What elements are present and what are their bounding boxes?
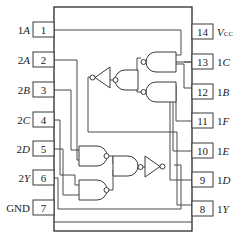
svg-text:2Y: 2Y [18, 172, 32, 184]
ic-pinout-diagram: 1 1A 2 2A 3 2B 4 2C 5 2D 6 2Y 7 GND 14 V… [0, 0, 233, 242]
svg-text:13: 13 [197, 56, 209, 68]
left-pin-1: 1 1A [18, 22, 54, 37]
not-gate-2 [145, 156, 165, 177]
svg-text:2D: 2D [17, 143, 31, 155]
svg-text:4: 4 [41, 114, 47, 126]
svg-text:11: 11 [197, 115, 208, 127]
svg-text:2A: 2A [18, 54, 31, 66]
not-gate-1 [90, 67, 110, 88]
svg-text:5: 5 [41, 143, 47, 155]
svg-text:1Y: 1Y [217, 203, 231, 215]
left-pin-3: 3 2B [18, 82, 54, 97]
svg-text:1: 1 [41, 24, 47, 36]
nand-gate-13 [141, 52, 176, 72]
svg-text:1E: 1E [217, 145, 230, 157]
left-pin-6: 6 2Y [18, 170, 54, 185]
svg-text:2C: 2C [17, 114, 31, 126]
svg-text:9: 9 [200, 174, 206, 186]
nand-gate-12 [141, 82, 176, 102]
chip-body [54, 7, 192, 231]
right-pin-10: 10 1E [192, 143, 230, 158]
svg-text:1F: 1F [217, 115, 230, 127]
svg-text:1B: 1B [217, 86, 230, 98]
svg-text:12: 12 [197, 86, 208, 98]
svg-text:VCC: VCC [217, 26, 233, 38]
right-pin-12: 12 1B [192, 84, 230, 99]
right-pin-13: 13 1C [192, 54, 231, 69]
right-pin-9: 9 1D [192, 172, 231, 187]
left-pin-2: 2 2A [18, 52, 54, 67]
svg-text:1C: 1C [217, 56, 231, 68]
svg-text:1D: 1D [217, 174, 231, 186]
svg-text:3: 3 [41, 84, 47, 96]
svg-text:1A: 1A [18, 24, 31, 36]
svg-text:2B: 2B [18, 84, 31, 96]
left-pin-5: 5 2D [17, 141, 54, 156]
svg-text:7: 7 [41, 202, 47, 214]
svg-text:6: 6 [41, 172, 47, 184]
svg-text:14: 14 [197, 26, 209, 38]
left-pin-4: 4 2C [17, 112, 54, 127]
svg-text:8: 8 [200, 203, 206, 215]
left-pin-7-gnd: 7 GND [6, 200, 54, 215]
right-pin-14-vcc: 14 VCC [192, 24, 233, 39]
right-pin-11: 11 1F [192, 113, 230, 128]
nand-gate-2-lower [79, 180, 109, 200]
nand-gate-1-mid [113, 70, 138, 90]
nand-gate-2-mid [113, 156, 143, 176]
right-pin-8: 8 1Y [192, 201, 231, 216]
svg-text:10: 10 [197, 145, 209, 157]
nand-gate-2-upper [79, 146, 109, 166]
svg-text:GND: GND [6, 202, 30, 214]
svg-text:2: 2 [41, 54, 47, 66]
